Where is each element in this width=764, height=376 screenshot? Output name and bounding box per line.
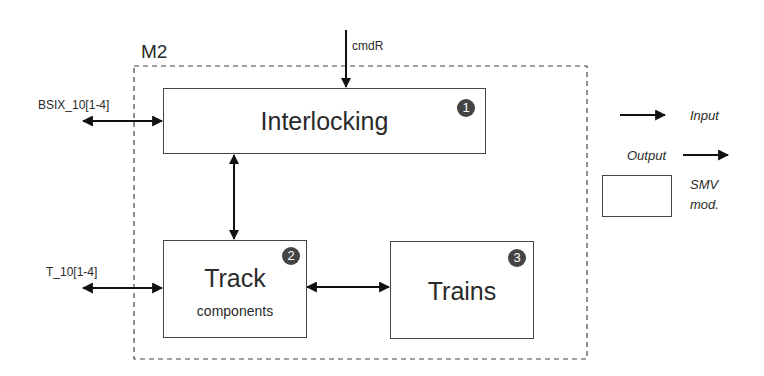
cmd-signal-label: cmdR [352,40,383,52]
track-components-block: Track components 2 [163,240,307,338]
track-title: Track [164,266,306,291]
legend-module-label-line2: mod. [690,198,719,211]
interlocking-block: Interlocking 1 [163,88,486,154]
interlocking-title: Interlocking [164,109,485,134]
module-label: M2 [141,42,167,61]
block-number-badge: 2 [282,247,300,265]
legend-output-label: Output [627,149,666,162]
legend-module-label-line1: SMV [690,178,718,191]
track-signal-label: T_10[1-4] [46,266,97,278]
trains-block: Trains 3 [390,241,534,339]
legend-input-label: Input [690,109,719,122]
block-number-badge: 3 [508,249,526,267]
track-subtitle: components [164,304,306,318]
trains-title: Trains [391,279,533,304]
block-number-badge: 1 [457,99,475,117]
bsix-signal-label: BSIX_10[1-4] [38,99,109,111]
legend-module-box [602,175,672,217]
